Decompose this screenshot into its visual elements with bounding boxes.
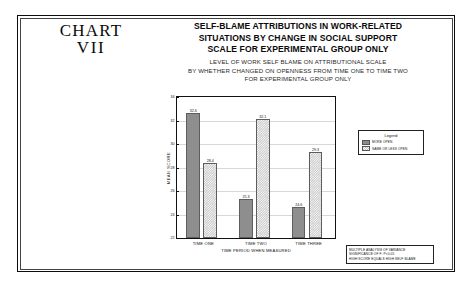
chart-title-line-1: SELF-BLAME ATTRIBUTIONS IN WORK-RELATED [148, 21, 448, 33]
bar-series-container: 32.628.4TIME ONE25.332.1TIME TWO24.629.3… [177, 97, 335, 238]
x-axis-tick-label: TIME ONE [193, 241, 214, 246]
legend-swatch [362, 146, 370, 151]
bar-value-label: 25.3 [242, 195, 249, 199]
legend-entry: MORE OPEN [362, 140, 420, 145]
bar-same-or-less-open: 28.4 [203, 163, 217, 238]
chart-title-line-2: SITUATIONS BY CHANGE IN SOCIAL SUPPORT [148, 33, 448, 45]
footnote-line-3: HIGH SCORE EQUALS HIGH SELF BLAME [349, 257, 431, 262]
chart-title-line-3: SCALE FOR EXPERIMENTAL GROUP ONLY [148, 44, 448, 56]
bar-group: 32.628.4TIME ONE [177, 97, 230, 238]
bar-more-open: 32.6 [186, 113, 200, 238]
legend-swatch [362, 140, 370, 145]
chart-number: CHART VII [36, 22, 146, 57]
chart-page: CHART VII SELF-BLAME ATTRIBUTIONS IN WOR… [0, 0, 473, 286]
footnote-box: MULTIPLE ANALYSIS OF VARIANCE SIGNIFICAN… [346, 245, 434, 264]
legend-entries: MORE OPENSAME OR LESS OPEN [362, 140, 420, 152]
bar-value-label: 32.1 [259, 115, 266, 119]
chart-subtitle-line-2: BY WHETHER CHANGED ON OPENNESS FROM TIME… [138, 67, 458, 76]
chart-subtitle-line-1: LEVEL OF WORK SELF BLAME ON ATTRIBUTIONA… [138, 58, 458, 67]
y-axis-label: MEAN SCORE [166, 151, 171, 184]
chart-subtitle-line-3: FOR EXPERIMENTAL GROUP ONLY [138, 75, 458, 84]
bar-more-open: 25.3 [239, 199, 253, 238]
chart-subtitle: LEVEL OF WORK SELF BLAME ON ATTRIBUTIONA… [138, 58, 458, 84]
bar-group: 25.332.1TIME TWO [230, 97, 283, 238]
legend-label: SAME OR LESS OPEN [372, 147, 407, 151]
bar-group: 24.629.3TIME THREE [282, 97, 335, 238]
x-axis-tick-label: TIME THREE [295, 241, 322, 246]
legend-entry: SAME OR LESS OPEN [362, 146, 420, 151]
bar-more-open: 24.6 [292, 207, 306, 238]
plot-area: 22242628303234 32.628.4TIME ONE25.332.1T… [176, 96, 336, 239]
bar-same-or-less-open: 29.3 [309, 152, 323, 238]
bar-same-or-less-open: 32.1 [256, 119, 270, 238]
bar-value-label: 32.6 [190, 109, 197, 113]
x-axis-label: TIME PERIOD WHEN MEASURED [176, 248, 336, 253]
bar-value-label: 24.6 [295, 203, 302, 207]
plot-frame: 22242628303234 32.628.4TIME ONE25.332.1T… [176, 96, 336, 239]
legend-box: Legend MORE OPENSAME OR LESS OPEN [358, 130, 424, 155]
chart-number-line1: CHART [36, 22, 146, 39]
chart-number-line2: VII [36, 39, 146, 56]
legend-label: MORE OPEN [372, 140, 392, 144]
legend-title: Legend [362, 133, 420, 138]
bar-value-label: 29.3 [312, 148, 319, 152]
chart-title: SELF-BLAME ATTRIBUTIONS IN WORK-RELATED … [148, 21, 448, 56]
x-axis-tick-label: TIME TWO [245, 241, 267, 246]
bar-value-label: 28.4 [207, 159, 214, 163]
